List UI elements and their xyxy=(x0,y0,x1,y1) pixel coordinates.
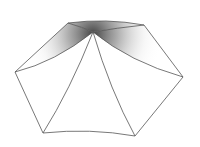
edges xyxy=(15,21,183,136)
curved-polyhedron-diagram xyxy=(0,0,200,147)
